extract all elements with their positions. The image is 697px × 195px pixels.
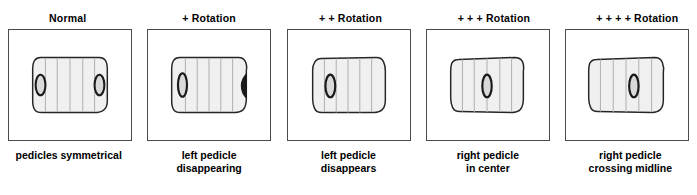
panel-caption: pedicles symmetrical	[16, 149, 122, 162]
vertebral-body	[589, 58, 664, 113]
right-pedicle-icon	[482, 75, 491, 98]
panel-frame	[426, 29, 550, 141]
panel-heading: + + + + Rotation	[596, 10, 678, 26]
panel-normal: Normal pedicles symmetrical	[0, 0, 139, 195]
vertebral-body	[172, 58, 247, 113]
panel-plus-plus-plus-plus-rotation: + + + + Rotation right pedicle crossing …	[558, 0, 697, 195]
panel-frame	[287, 29, 411, 141]
right-pedicle-icon	[94, 75, 104, 96]
panel-frame	[8, 29, 132, 141]
panel-plus-plus-rotation: + + Rotation left pedicle disappears	[279, 0, 418, 195]
panel-plus-plus-plus-rotation: + + + Rotation right pedicle in center	[418, 0, 557, 195]
panel-caption: left pedicle disappearing	[176, 149, 241, 175]
panel-caption: left pedicle disappears	[321, 149, 376, 175]
left-pedicle-icon	[35, 75, 45, 96]
panel-caption: right pedicle crossing midline	[589, 149, 672, 175]
vertebral-body	[451, 58, 524, 113]
panel-frame	[565, 29, 689, 141]
rotation-grading-figure: Normal pedicles symmetrical	[0, 0, 697, 195]
vertebral-body	[312, 58, 385, 113]
panel-heading: + + Rotation	[319, 10, 382, 26]
left-pedicle-icon	[178, 73, 187, 97]
vertebral-body	[32, 58, 107, 113]
panel-heading: + + + Rotation	[458, 10, 531, 26]
panel-heading: Normal	[49, 10, 86, 26]
panel-plus-rotation: + Rotation left pedicle disappeari	[139, 0, 278, 195]
panel-heading: + Rotation	[182, 10, 236, 26]
panel-frame	[147, 29, 271, 141]
right-pedicle-icon	[629, 75, 638, 98]
right-pedicle-icon	[325, 75, 335, 98]
panel-caption: right pedicle in center	[457, 149, 519, 175]
